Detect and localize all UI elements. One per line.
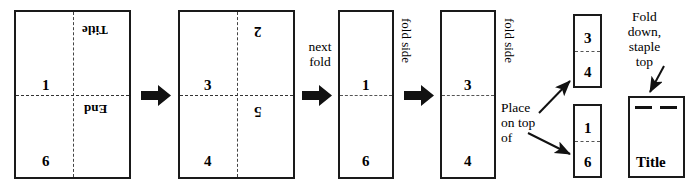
step-arrow-3 [404, 85, 434, 106]
caption-fold-down-staple-top: Fold down, staple top [617, 9, 672, 69]
step-arrow-2 [302, 85, 332, 106]
sheet1-mark-end: End [84, 103, 107, 116]
sheet-unfolded-side-b: 2 3 5 4 [178, 10, 295, 179]
horizontal-fold-line [442, 95, 494, 96]
step-arrow-1 [141, 85, 171, 106]
staple-mark-left [635, 106, 652, 109]
final-booklet: Title [628, 96, 685, 178]
horizontal-fold-line [340, 95, 392, 96]
horizontal-fold-line [575, 51, 600, 52]
horizontal-fold-line [16, 95, 129, 96]
sheet2-mark-3: 3 [204, 78, 212, 93]
caption-fold-side-2: fold side [501, 18, 517, 63]
sheet3-mark-1: 1 [362, 78, 370, 93]
quarter-bottom-mark-6: 6 [584, 155, 592, 170]
sheet2-mark-2: 2 [254, 24, 262, 39]
diagram-canvas: Title 1 End 6 2 3 5 4 1 6 3 4 3 4 1 6 [0, 0, 690, 187]
sheet1-mark-title: Title [82, 24, 108, 37]
sheet4-mark-3: 3 [464, 78, 472, 93]
quarter-bottom-mark-1: 1 [584, 121, 592, 136]
sheet1-mark-1: 1 [42, 78, 50, 93]
pointer-arrow-staple [650, 66, 664, 92]
sheet2-mark-5: 5 [254, 104, 262, 119]
caption-fold-side-1: fold side [398, 18, 414, 63]
sheet2-mark-4: 4 [204, 154, 212, 169]
sheet-quarter-bottom: 1 6 [573, 104, 602, 178]
staple-mark-right [660, 106, 677, 109]
sheet3-mark-6: 6 [362, 154, 370, 169]
horizontal-fold-line [575, 141, 600, 142]
horizontal-fold-line [180, 95, 293, 96]
sheet-folded-once-a: 1 6 [338, 10, 394, 179]
final-booklet-title: Title [636, 154, 666, 171]
sheet4-mark-4: 4 [464, 154, 472, 169]
quarter-top-mark-4: 4 [584, 65, 592, 80]
quarter-top-mark-3: 3 [584, 31, 592, 46]
caption-place-on-top-of: Place on top of [501, 100, 563, 145]
sheet-quarter-top: 3 4 [573, 14, 602, 88]
caption-next-fold: next fold [299, 39, 341, 69]
sheet-unfolded-side-a: Title 1 End 6 [14, 10, 131, 179]
sheet-folded-once-b: 3 4 [440, 10, 496, 179]
sheet1-mark-6: 6 [42, 154, 50, 169]
